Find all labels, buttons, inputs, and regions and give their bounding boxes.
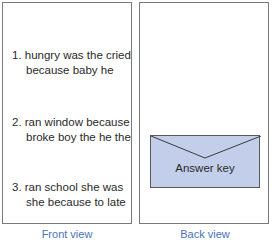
front-view-card: 1. hungry was the cried because baby he …	[2, 2, 132, 224]
envelope-label: Answer key	[151, 162, 259, 174]
back-view-card: Answer key	[139, 2, 269, 224]
sentence-1-line-1: 1. hungry was the cried	[12, 48, 131, 63]
back-view-caption: Back view	[139, 228, 271, 240]
sentence-3-line-2: she because to late	[26, 195, 126, 210]
answer-key-envelope: Answer key	[150, 135, 260, 188]
sentence-1-line-2: because baby he	[26, 63, 114, 78]
sentence-2-line-2: broke boy the he the	[26, 130, 131, 145]
sentence-3-line-1: 3. ran school she was	[12, 180, 123, 195]
front-view-caption: Front view	[1, 228, 133, 240]
sentence-2-line-1: 2. ran window because	[12, 115, 130, 130]
